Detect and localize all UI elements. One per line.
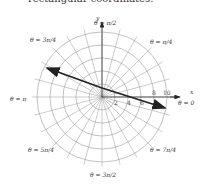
angle-label-3pi-4: θ = 3π/4 — [30, 36, 56, 43]
angle-label-5pi-4: θ = 5π/4 — [28, 146, 54, 153]
angle-label-0: θ = 0 — [178, 99, 194, 106]
vector-line — [47, 68, 102, 88]
angle-label-3pi-2: θ = 3π/2 — [90, 171, 116, 178]
tick-4: 4 — [127, 99, 131, 106]
angle-label-pi: θ = π — [10, 95, 27, 102]
x-axis-label: x — [190, 88, 194, 95]
angle-label-7pi-4: θ = 7π/4 — [150, 146, 176, 153]
tick-6: 6 — [140, 99, 144, 106]
tick-10: 10 — [163, 89, 171, 96]
tick-8: 8 — [152, 89, 156, 96]
polar-diagram: 2 4 6 8 10 x y θ = 0 θ = π/4 θ = π/2 θ =… — [0, 0, 203, 184]
angle-label-pi-2: θ = π/2 — [94, 19, 116, 26]
tick-2: 2 — [114, 99, 118, 106]
angle-label-pi-4: θ = π/4 — [150, 38, 172, 45]
